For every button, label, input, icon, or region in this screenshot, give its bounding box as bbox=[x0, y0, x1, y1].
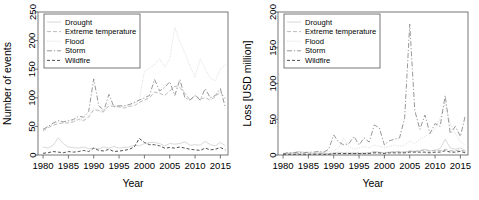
y-tick-label: 0 bbox=[266, 152, 277, 157]
y-tick-label: 100 bbox=[266, 76, 277, 92]
y-tick-label: 0 bbox=[27, 152, 38, 157]
x-tick-label: 2015 bbox=[210, 160, 231, 171]
x-tick-label: 1985 bbox=[58, 160, 79, 171]
x-tick-label: 1995 bbox=[108, 160, 129, 171]
series-line-drought bbox=[43, 138, 225, 149]
y-axis-title: Loss [USD million] bbox=[241, 41, 253, 127]
x-tick-label: 2000 bbox=[134, 160, 155, 171]
y-tick-label: 150 bbox=[27, 61, 38, 77]
legend-label-drought: Drought bbox=[65, 18, 93, 27]
legend-label-flood: Flood bbox=[65, 37, 84, 46]
y-tick-label: 100 bbox=[27, 90, 38, 106]
x-tick-label: 1980 bbox=[272, 160, 293, 171]
legend-label-wildfire: Wildfire bbox=[65, 56, 90, 65]
x-tick-label: 2005 bbox=[399, 160, 420, 171]
series-line-flood bbox=[283, 104, 465, 154]
legend-label-extreme-temperature: Extreme temperature bbox=[65, 27, 136, 36]
x-tick-label: 2010 bbox=[424, 160, 445, 171]
x-tick-label: 1990 bbox=[83, 160, 104, 171]
y-tick-label: 250 bbox=[27, 4, 38, 20]
loss-plot: 0501001502001980198519901995200020052010… bbox=[240, 0, 479, 200]
legend-label-extreme-temperature: Extreme temperature bbox=[305, 27, 376, 36]
x-tick-label: 2015 bbox=[449, 160, 470, 171]
panel-loss: 0501001502001980198519901995200020052010… bbox=[240, 0, 479, 200]
y-tick-label: 200 bbox=[266, 4, 277, 20]
y-axis-title: Number of events bbox=[1, 42, 13, 125]
legend-label-storm: Storm bbox=[305, 46, 325, 55]
legend-label-storm: Storm bbox=[65, 46, 85, 55]
x-tick-label: 2010 bbox=[184, 160, 205, 171]
series-line-extreme-temperature bbox=[43, 86, 225, 131]
x-axis-title: Year bbox=[122, 177, 144, 189]
x-axis-title: Year bbox=[362, 177, 384, 189]
x-tick-label: 2000 bbox=[373, 160, 394, 171]
panel-events: 0501001502002501980198519901995200020052… bbox=[0, 0, 240, 200]
x-tick-label: 2005 bbox=[159, 160, 180, 171]
series-line-wildfire bbox=[43, 138, 225, 153]
events-plot: 0501001502002501980198519901995200020052… bbox=[0, 0, 239, 200]
x-tick-label: 1985 bbox=[297, 160, 318, 171]
x-tick-label: 1980 bbox=[32, 160, 53, 171]
figure: 0501001502002501980198519901995200020052… bbox=[0, 0, 479, 200]
series-line-drought bbox=[283, 139, 465, 153]
y-tick-label: 50 bbox=[266, 114, 277, 125]
x-tick-label: 1990 bbox=[323, 160, 344, 171]
y-tick-label: 200 bbox=[27, 33, 38, 49]
legend-label-flood: Flood bbox=[305, 37, 324, 46]
legend-label-wildfire: Wildfire bbox=[305, 56, 330, 65]
x-tick-label: 1995 bbox=[348, 160, 369, 171]
legend-label-drought: Drought bbox=[305, 18, 333, 27]
y-tick-label: 50 bbox=[27, 121, 38, 132]
y-tick-label: 150 bbox=[266, 40, 277, 56]
